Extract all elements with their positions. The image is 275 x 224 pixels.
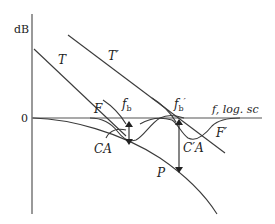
curve-T-prime [68,35,225,153]
frequency-response-diagram: dB 0 f, log. sc T T′ P F F′ fb fb′ CA C′… [0,0,275,224]
curve-P [33,118,217,214]
label-fb-prime: fb′ [173,96,187,113]
x-axis-label: f, log. sc [211,103,259,116]
label-F-prime: F′ [215,126,227,140]
label-F: F [93,102,103,116]
label-fb: fb [121,97,132,113]
label-CA: CA [94,142,112,156]
label-C-prime-A: C′A [183,141,204,155]
y-axis-label: dB [14,23,29,36]
zero-label: 0 [21,112,28,125]
label-T-prime: T′ [108,49,119,63]
label-P: P [156,166,166,180]
label-T: T [58,53,67,67]
